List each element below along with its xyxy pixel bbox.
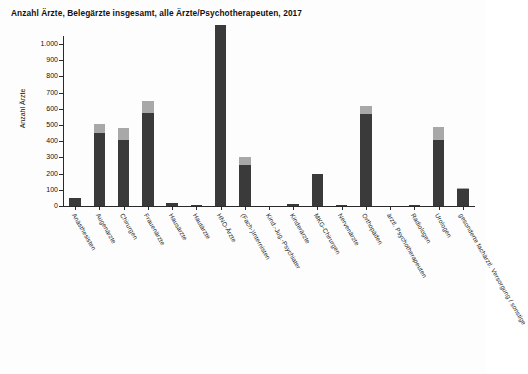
x-axis-tick-label: Frauenärzte — [143, 212, 167, 246]
x-axis-tick-label: HNO-Ärzte — [216, 212, 238, 243]
x-axis-tick-label: gesonderte fachärztl. Versorgung / sonst… — [458, 212, 528, 326]
bar-segment — [239, 165, 251, 206]
bar — [118, 128, 130, 206]
bar-segment — [69, 198, 81, 206]
x-axis-tick-label: Orthopäden — [361, 212, 384, 246]
x-axis-tick-labels: AnästhesistenAugenärzteChirurgenFrauenär… — [0, 206, 486, 374]
bar-segment — [215, 25, 227, 206]
bar-segment — [312, 174, 324, 206]
x-axis-tick-label: MKG-Chirurgen — [313, 212, 342, 255]
x-axis-tick-label: Hausärzte — [167, 212, 188, 242]
x-axis-tick-label: Chirurgen — [119, 212, 140, 241]
bar — [457, 188, 469, 206]
bars-container — [0, 0, 486, 206]
x-axis-tick-label: Kinderärzte — [289, 212, 312, 245]
bar-segment — [457, 189, 469, 206]
bar — [215, 25, 227, 206]
x-axis-tick-label: Anästhesisten — [71, 212, 98, 251]
x-axis-tick-label: Urologen — [434, 212, 453, 239]
bar — [94, 124, 106, 206]
bar-segment — [360, 114, 372, 206]
bar-segment — [118, 140, 130, 206]
bar — [360, 106, 372, 206]
bar-segment — [239, 157, 251, 165]
bar — [239, 157, 251, 206]
bar — [433, 127, 445, 206]
bar — [142, 101, 154, 206]
x-axis-tick-label: Radiologen — [410, 212, 433, 244]
bar-segment — [118, 128, 130, 140]
bar — [69, 198, 81, 206]
x-axis-tick-label: Nervenärzte — [337, 212, 361, 247]
bar-segment — [94, 124, 106, 133]
bar-segment — [360, 106, 372, 115]
bar-segment — [94, 133, 106, 206]
bar-segment — [433, 127, 445, 140]
bar-segment — [142, 101, 154, 113]
x-axis-tick-label: Hautärzte — [192, 212, 212, 240]
bar — [312, 174, 324, 206]
bar-segment — [433, 140, 445, 206]
x-axis-tick-label: Augenärzte — [95, 212, 118, 245]
bar-segment — [142, 113, 154, 206]
